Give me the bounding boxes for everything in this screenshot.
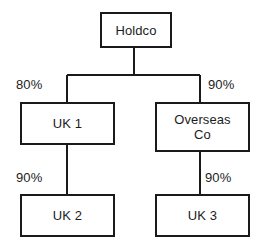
edge-label-overseas-co-to-uk3: 90% [205,171,231,185]
edge-label-holdco-to-uk1: 80% [16,78,42,92]
node-holdco-label: Holdco [115,23,156,38]
node-uk2[interactable]: UK 2 [20,194,115,237]
ownership-structure-diagram: Holdco UK 1 Overseas Co UK 2 UK 3 80% 90… [0,0,268,252]
node-uk2-label: UK 2 [53,208,82,223]
node-uk1[interactable]: UK 1 [20,102,115,145]
node-overseas-co[interactable]: Overseas Co [155,102,250,152]
edge-label-holdco-to-overseas-co: 90% [208,78,234,92]
edge-label-uk1-to-uk2: 90% [16,171,42,185]
node-holdco[interactable]: Holdco [100,12,172,48]
node-uk3-label: UK 3 [188,208,217,223]
node-uk1-label: UK 1 [53,116,82,131]
node-overseas-co-label: Overseas Co [174,112,230,142]
node-uk3[interactable]: UK 3 [155,194,250,237]
